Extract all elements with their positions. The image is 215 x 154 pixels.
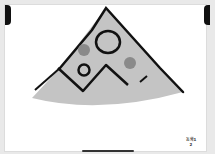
page-number: 2 xyxy=(179,142,203,147)
home-indicator[interactable] xyxy=(82,150,134,152)
pizza-drawing xyxy=(0,0,215,154)
page-label: 동화1 2 xyxy=(179,137,203,147)
